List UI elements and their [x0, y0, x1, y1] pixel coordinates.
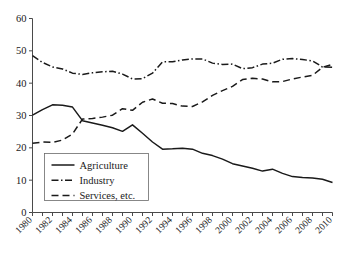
- x-tick-label: 1998: [193, 215, 214, 236]
- chart-legend: AgricultureIndustryServices, etc.: [45, 154, 149, 202]
- x-tick-label: 1992: [133, 215, 154, 236]
- x-axis-ticks: 1980198219841986198819901992199419961998…: [13, 213, 334, 236]
- y-tick-label: 60: [16, 13, 27, 24]
- x-tick-label: 1990: [113, 215, 134, 236]
- x-tick-label: 1994: [153, 215, 174, 236]
- x-tick-label: 1982: [33, 215, 54, 236]
- chart-container: 0102030405060 19801982198419861988199019…: [0, 0, 349, 255]
- x-tick-label: 2004: [253, 215, 274, 236]
- x-tick-label: 2006: [273, 215, 294, 236]
- y-axis-ticks: 0102030405060: [16, 13, 33, 218]
- legend-label: Agriculture: [80, 160, 129, 171]
- legend-label: Services, etc.: [80, 190, 136, 201]
- series-line-industry: [33, 56, 333, 79]
- x-tick-label: 2008: [293, 215, 314, 236]
- y-tick-label: 30: [16, 110, 27, 121]
- y-tick-label: 40: [16, 78, 27, 89]
- series-line-services-etc: [33, 64, 333, 143]
- y-tick-label: 50: [16, 45, 27, 56]
- y-tick-label: 10: [16, 175, 27, 186]
- x-tick-label: 2010: [313, 215, 334, 236]
- x-tick-label: 1988: [93, 215, 114, 236]
- x-tick-label: 1996: [173, 215, 194, 236]
- legend-label: Industry: [80, 175, 116, 186]
- line-chart: 0102030405060 19801982198419861988199019…: [0, 0, 349, 255]
- y-tick-label: 20: [16, 142, 27, 153]
- x-tick-label: 2002: [233, 215, 254, 236]
- x-tick-label: 1984: [53, 215, 74, 236]
- x-tick-label: 1986: [73, 215, 94, 236]
- x-tick-label: 2000: [213, 215, 234, 236]
- x-tick-label: 1980: [13, 215, 34, 236]
